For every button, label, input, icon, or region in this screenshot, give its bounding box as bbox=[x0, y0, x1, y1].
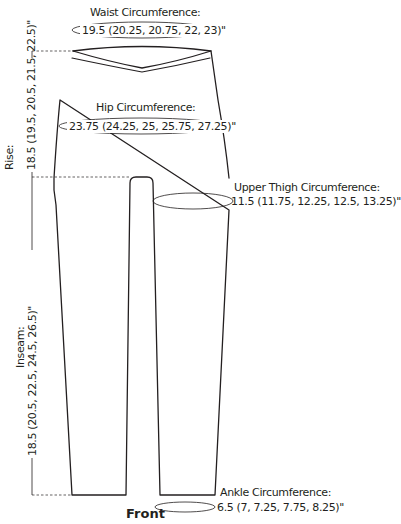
waistband-inner-line bbox=[72, 58, 210, 72]
inseam-value: 18.5 (20.5, 22.5, 24.5, 26.5)" bbox=[26, 306, 39, 456]
waist-value: 19.5 (20.25, 20.75, 22, 23)" bbox=[80, 24, 228, 37]
rise-label: Rise: bbox=[3, 145, 16, 170]
waist-label: Waist Circumference: bbox=[90, 6, 200, 19]
hip-label: Hip Circumference: bbox=[96, 101, 195, 114]
rise-value: 18.5 (19.5, 20.5, 21.5, 22.5)" bbox=[25, 20, 38, 170]
upper-thigh-label: Upper Thigh Circumference: bbox=[234, 181, 380, 194]
ankle-label: Ankle Circumference: bbox=[220, 486, 331, 499]
upper-thigh-ellipse bbox=[153, 193, 233, 209]
upper-thigh-value: 11.5 (11.75, 12.25, 12.5, 13.25)" bbox=[231, 195, 401, 208]
waistband-line bbox=[73, 51, 211, 68]
hip-value: 23.75 (24.25, 25, 25.75, 27.25)" bbox=[67, 120, 238, 133]
view-label: Front bbox=[126, 507, 165, 520]
ankle-value: 6.5 (7, 7.25, 7.75, 8.25)" bbox=[217, 501, 344, 514]
